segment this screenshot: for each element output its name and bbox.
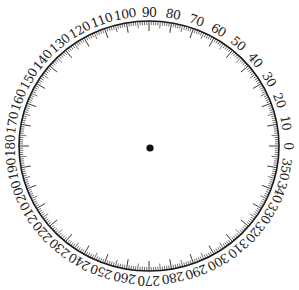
tick-mark	[272, 156, 279, 157]
tick-mark	[253, 204, 262, 209]
tick-mark	[209, 38, 214, 47]
degree-label-80: 80	[165, 5, 183, 22]
tick-mark	[181, 25, 183, 32]
degree-label-190: 190	[3, 156, 22, 181]
tick-mark	[19, 135, 26, 136]
tick-mark	[267, 124, 277, 126]
tick-mark	[126, 259, 128, 269]
tick-mark	[226, 50, 232, 58]
tick-mark	[170, 259, 172, 269]
degree-label-10: 10	[277, 114, 294, 132]
center-dot	[146, 144, 153, 151]
tick-mark	[170, 23, 172, 33]
degree-label-90: 90	[142, 5, 157, 20]
tick-mark	[84, 246, 89, 255]
tick-mark	[21, 166, 31, 168]
tick-mark	[23, 114, 30, 116]
degree-label-40: 40	[245, 49, 266, 70]
tick-mark	[160, 21, 161, 28]
tick-mark	[23, 177, 30, 179]
degree-label-350: 350	[276, 157, 295, 182]
tick-mark	[267, 166, 277, 168]
degree-label-0: 0	[281, 142, 296, 150]
degree-label-30: 30	[259, 69, 280, 90]
tick-mark	[209, 246, 214, 255]
degree-label-50: 50	[228, 33, 249, 54]
tick-mark	[49, 220, 57, 226]
degree-label-170: 170	[3, 110, 22, 135]
tick-mark	[19, 156, 26, 157]
degree-wheel: 0102030405060708090100110120130140150160…	[0, 0, 299, 290]
tick-mark	[268, 177, 275, 179]
tick-mark	[65, 234, 71, 242]
tick-mark	[272, 135, 279, 136]
degree-label-180: 180	[3, 134, 18, 157]
tick-mark	[65, 50, 71, 58]
tick-mark	[36, 204, 45, 209]
tick-mark	[138, 264, 139, 271]
tick-mark	[21, 124, 31, 126]
tick-mark	[115, 260, 117, 267]
tick-mark	[138, 21, 139, 28]
tick-mark	[268, 114, 275, 116]
tick-mark	[115, 25, 117, 32]
tick-mark	[253, 84, 262, 89]
degree-label-100: 100	[113, 5, 138, 24]
tick-mark	[84, 38, 89, 47]
degree-label-280: 280	[160, 269, 185, 288]
tick-mark	[226, 234, 232, 242]
tick-mark	[126, 23, 128, 33]
tick-mark	[241, 220, 249, 226]
tick-mark	[160, 264, 161, 271]
degree-label-260: 260	[112, 269, 137, 288]
degree-label-270: 270	[137, 273, 160, 288]
tick-mark	[36, 84, 45, 89]
tick-mark	[241, 66, 249, 72]
tick-mark	[181, 260, 183, 267]
tick-mark	[49, 66, 57, 72]
